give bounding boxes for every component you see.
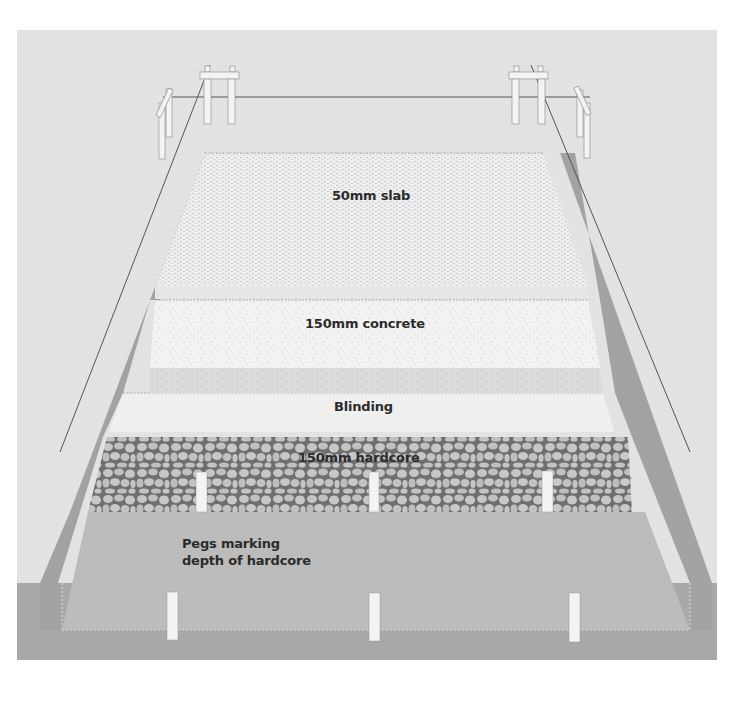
- layer-label-blinding: Blinding: [334, 399, 393, 414]
- construction-diagram: [0, 0, 752, 706]
- diagram-canvas: 50mm slab 150mm concrete Blinding 150mm …: [0, 0, 752, 706]
- layer-label-hardcore: 150mm hardcore: [298, 450, 420, 465]
- layer-label-slab: 50mm slab: [332, 188, 410, 203]
- layer-label-concrete: 150mm concrete: [305, 316, 425, 331]
- pegs-annotation: Pegs marking depth of hardcore: [182, 535, 311, 569]
- texture-overlay: [17, 30, 717, 660]
